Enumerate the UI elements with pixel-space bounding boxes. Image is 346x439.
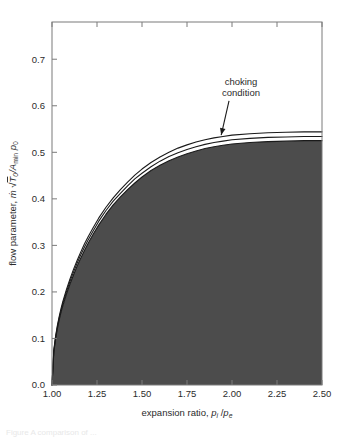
x-tick-label: 2.50 (313, 388, 332, 399)
shaded-choked-region (52, 141, 322, 385)
y-tick-label: 0.2 (32, 286, 45, 297)
annotation-label: chokingcondition (222, 76, 260, 98)
partial-caption: Figure A comparison of ... (0, 426, 346, 439)
x-tick-label: 2.25 (268, 388, 287, 399)
annotation-group: chokingcondition (220, 76, 260, 135)
x-tick-label: 1.25 (88, 388, 107, 399)
annotation-arrow-head (220, 128, 225, 135)
x-tick-label: 2.00 (223, 388, 242, 399)
x-tick-label: 1.75 (178, 388, 197, 399)
x-tick-label: 1.50 (133, 388, 152, 399)
y-tick-label: 0.7 (32, 54, 45, 65)
y-tick-label: 0.3 (32, 240, 45, 251)
y-axis: 0.00.10.20.30.40.50.60.7 (32, 54, 57, 391)
flow-parameter-chart: 1.001.251.501.752.002.252.500.00.10.20.3… (0, 0, 346, 439)
caption-strip: Figure A comparison of ... (0, 426, 346, 439)
x-axis-title: expansion ratio, pi /pe (142, 407, 233, 419)
y-axis-title: flow parameter, ṁ √T0/Amin p0 (7, 141, 19, 266)
figure-container: 1.001.251.501.752.002.252.500.00.10.20.3… (0, 0, 346, 439)
y-tick-label: 0.5 (32, 147, 45, 158)
y-tick-label: 0.4 (32, 193, 45, 204)
y-tick-label: 0.1 (32, 333, 45, 344)
plot-area (52, 22, 322, 385)
y-tick-label: 0.0 (32, 379, 45, 390)
x-tick-label: 1.00 (43, 388, 62, 399)
y-tick-label: 0.6 (32, 100, 45, 111)
